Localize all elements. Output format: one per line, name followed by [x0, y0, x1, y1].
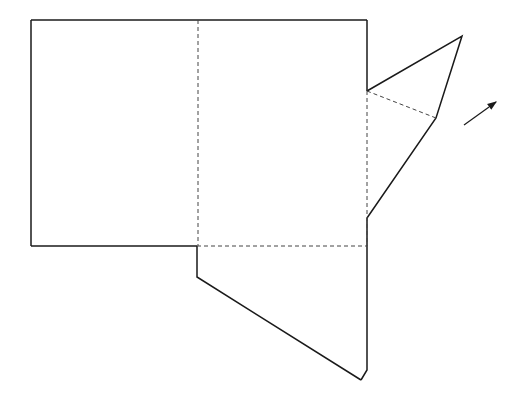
top-flap	[367, 36, 462, 218]
bottom-flap	[197, 246, 361, 380]
dashed-fold-lines	[197, 20, 436, 246]
fold-flap	[367, 91, 436, 118]
solid-edges	[31, 20, 462, 380]
right-edge-lower	[361, 218, 367, 380]
net-diagram	[0, 0, 523, 402]
direction-arrow-icon	[464, 102, 496, 125]
